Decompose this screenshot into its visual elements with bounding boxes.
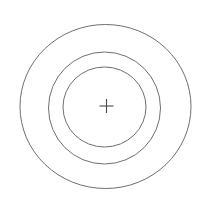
figure-background bbox=[0, 0, 209, 198]
concentric-circles-diagram bbox=[0, 0, 209, 198]
figure-canvas bbox=[0, 0, 209, 198]
